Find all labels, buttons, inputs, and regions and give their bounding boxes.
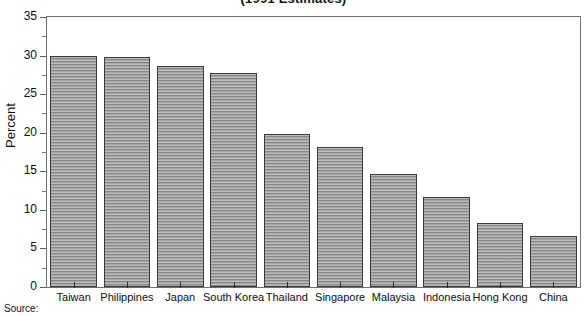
bar — [530, 236, 577, 287]
bar — [423, 197, 470, 287]
x-tick-mark — [234, 282, 235, 288]
y-tick-label: 5 — [30, 240, 37, 254]
x-tick-mark — [287, 282, 288, 288]
x-tick-label: South Korea — [203, 291, 264, 303]
x-tick-mark — [340, 282, 341, 288]
x-tick-mark — [393, 282, 394, 288]
chart-screenshot: (1991 Estimates) Percent 05101520253035 … — [0, 0, 587, 316]
x-tick-label: Malaysia — [372, 291, 415, 303]
bar — [104, 57, 151, 287]
bar — [370, 174, 417, 287]
source-note: Source: — [4, 303, 38, 314]
y-tick-label: 0 — [30, 279, 37, 293]
bar — [264, 134, 311, 288]
y-tick-label: 25 — [24, 86, 37, 100]
chart-title: (1991 Estimates) — [0, 0, 587, 6]
x-tick-label: Singapore — [315, 291, 365, 303]
x-tick-mark — [553, 282, 554, 288]
bar — [317, 147, 364, 287]
x-tick-label: China — [539, 291, 568, 303]
x-tick-mark — [447, 282, 448, 288]
x-tick-label: Taiwan — [57, 291, 91, 303]
bar — [210, 73, 257, 287]
x-tick-mark — [74, 282, 75, 288]
x-tick-label: Philippines — [100, 291, 153, 303]
x-tick-label: Japan — [165, 291, 195, 303]
bar — [157, 66, 204, 287]
x-tick-mark — [500, 282, 501, 288]
bars-group — [47, 17, 580, 287]
bar — [477, 223, 524, 287]
x-tick-mark — [127, 282, 128, 288]
x-tick-mark — [180, 282, 181, 288]
y-tick-label: 15 — [24, 163, 37, 177]
x-tick-label: Thailand — [266, 291, 308, 303]
y-tick-label: 20 — [24, 125, 37, 139]
y-tick-label: 35 — [24, 9, 37, 23]
x-tick-label: Hong Kong — [473, 291, 528, 303]
bar — [50, 56, 97, 287]
y-tick-label: 10 — [24, 202, 37, 216]
x-tick-label: Indonesia — [423, 291, 471, 303]
y-axis-label: Percent — [3, 90, 18, 162]
y-tick-label: 30 — [24, 48, 37, 62]
